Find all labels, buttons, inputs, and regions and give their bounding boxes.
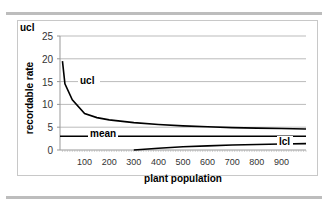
y-tick-label: 15 — [42, 77, 54, 88]
ucl-line — [62, 61, 306, 129]
x-tick-label: 400 — [151, 157, 166, 167]
y-tick-label: 25 — [42, 31, 54, 42]
x-axis-label: plant population — [144, 173, 222, 184]
y-tick-label: 5 — [47, 122, 53, 133]
x-tick-label: 900 — [274, 157, 289, 167]
x-tick-label: 200 — [102, 157, 117, 167]
chart: ucl recordable rate 0510152025 100200300… — [0, 0, 328, 213]
y-tick-label: 0 — [47, 145, 53, 156]
y-tick-label: 10 — [42, 99, 54, 110]
y-axis-label: recordable rate — [24, 61, 35, 134]
corner-label: ucl — [20, 22, 35, 33]
x-tick-labels: 100200300400500600700800900 — [77, 157, 289, 167]
y-tick-labels: 0510152025 — [42, 31, 54, 156]
x-tick-label: 100 — [77, 157, 92, 167]
x-tick-label: 500 — [175, 157, 190, 167]
x-tick-label: 600 — [200, 157, 215, 167]
x-tick-label: 300 — [126, 157, 141, 167]
mean-annotation: mean — [90, 128, 116, 139]
x-tick-label: 800 — [249, 157, 264, 167]
x-tick-label: 700 — [225, 157, 240, 167]
ucl-annotation: ucl — [80, 75, 95, 86]
lcl-annotation: lcl — [279, 136, 290, 147]
y-tick-label: 20 — [42, 54, 54, 65]
